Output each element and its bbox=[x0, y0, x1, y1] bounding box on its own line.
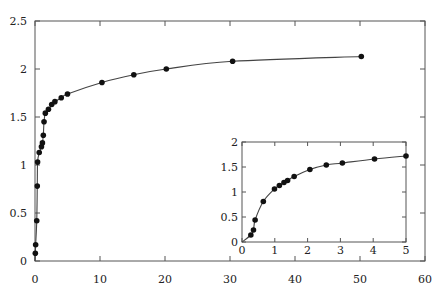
inset-data-point bbox=[277, 183, 283, 189]
inset-data-point bbox=[251, 227, 257, 233]
inset-plot: 01234500.511.52 bbox=[221, 136, 410, 257]
inset-data-point bbox=[372, 156, 378, 162]
inset-y-tick-label: 1.5 bbox=[221, 161, 239, 174]
inset-x-tick-label: 1 bbox=[271, 244, 278, 257]
main-data-point bbox=[52, 99, 58, 105]
main-x-tick-label: 10 bbox=[93, 273, 107, 286]
inset-x-tick-label: 3 bbox=[337, 244, 344, 257]
main-data-point bbox=[359, 54, 365, 60]
inset-data-point bbox=[285, 178, 291, 184]
main-data-point bbox=[33, 251, 39, 257]
main-data-point bbox=[34, 218, 40, 224]
main-data-point bbox=[65, 91, 71, 97]
main-x-tick-label: 20 bbox=[158, 273, 172, 286]
main-data-point bbox=[41, 119, 47, 125]
main-data-point bbox=[34, 183, 40, 189]
main-y-tick-label: 0.5 bbox=[10, 207, 28, 220]
main-data-point bbox=[164, 66, 170, 72]
inset-y-tick-label: 2 bbox=[231, 136, 238, 149]
main-data-point bbox=[58, 95, 64, 101]
chart-canvas: 010203040506000.511.522.5 01234500.511.5… bbox=[0, 0, 444, 291]
inset-x-tick-label: 2 bbox=[304, 244, 311, 257]
inset-y-tick-label: 0 bbox=[231, 236, 238, 249]
inset-data-point bbox=[252, 217, 258, 223]
main-data-point bbox=[99, 80, 105, 86]
main-y-tick-label: 1.5 bbox=[10, 111, 28, 124]
inset-data-point bbox=[340, 160, 346, 166]
inset-x-tick-label: 0 bbox=[239, 244, 246, 257]
main-x-tick-label: 50 bbox=[353, 273, 367, 286]
main-x-tick-label: 0 bbox=[32, 273, 39, 286]
inset-data-point bbox=[291, 174, 297, 180]
main-x-tick-label: 40 bbox=[288, 273, 302, 286]
inset-data-point bbox=[248, 232, 254, 238]
inset-data-point bbox=[261, 199, 267, 205]
inset-y-tick-label: 1 bbox=[231, 186, 238, 199]
main-y-tick-label: 0 bbox=[20, 255, 27, 268]
inset-y-tick-label: 0.5 bbox=[221, 211, 239, 224]
inset-x-tick-label: 4 bbox=[370, 244, 377, 257]
inset-x-tick-label: 5 bbox=[403, 244, 410, 257]
inset-data-point bbox=[307, 167, 313, 173]
main-data-point bbox=[41, 132, 47, 138]
main-data-point bbox=[230, 59, 236, 65]
main-data-point bbox=[40, 140, 46, 146]
main-data-point bbox=[46, 107, 52, 113]
main-data-point bbox=[35, 159, 41, 165]
main-data-point bbox=[36, 150, 42, 156]
inset-data-point bbox=[323, 162, 329, 168]
main-x-tick-label: 30 bbox=[223, 273, 237, 286]
inset-background bbox=[242, 142, 406, 242]
main-y-tick-label: 2.5 bbox=[10, 15, 28, 28]
main-y-tick-label: 2 bbox=[20, 63, 27, 76]
inset-data-point bbox=[272, 186, 278, 192]
main-data-point bbox=[131, 72, 137, 78]
inset-data-point bbox=[403, 153, 409, 159]
main-data-point bbox=[33, 242, 39, 248]
main-x-tick-label: 60 bbox=[418, 273, 432, 286]
main-y-tick-label: 1 bbox=[20, 159, 27, 172]
